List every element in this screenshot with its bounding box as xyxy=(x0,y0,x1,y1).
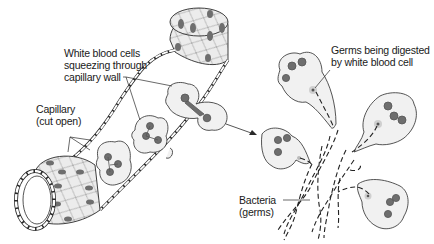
arrow-to-tissue xyxy=(226,124,257,135)
label-white-blood-cells: White blood cells squeezing through capi… xyxy=(64,47,147,83)
diagram: White blood cells squeezing through capi… xyxy=(0,0,434,244)
label-bacteria: Bacteria (germs) xyxy=(239,194,276,218)
white-blood-cells-in-capillary xyxy=(96,82,227,185)
bacteria-strands xyxy=(278,92,377,240)
label-germs-being-digested: Germs being digested by white blood cell xyxy=(331,44,430,68)
label-capillary: Capillary (cut open) xyxy=(36,103,81,127)
